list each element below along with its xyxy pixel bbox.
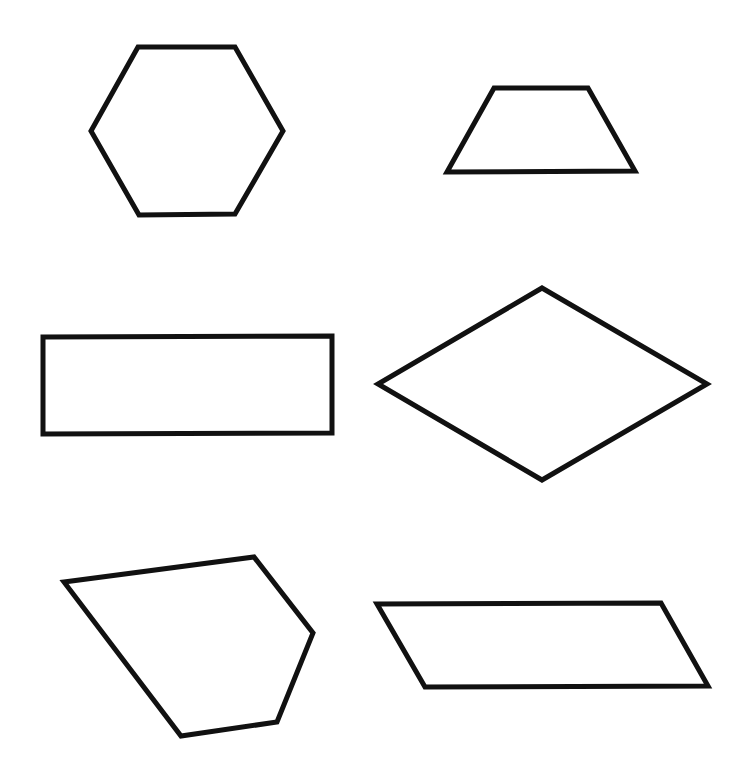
diagram-svg [0, 0, 745, 763]
rectangle-shape [43, 336, 332, 434]
irregular-pentagon-shape [64, 557, 313, 736]
rhombus-shape [378, 288, 707, 480]
parallelogram-shape [377, 603, 708, 687]
shapes-diagram [0, 0, 745, 763]
trapezoid-shape [447, 88, 635, 172]
hexagon-shape [91, 47, 283, 215]
